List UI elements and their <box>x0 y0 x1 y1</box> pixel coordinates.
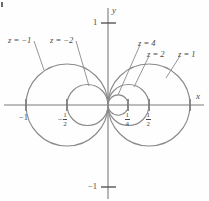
fraction-denominator: 4 <box>125 120 130 127</box>
fraction-denominator: 2 <box>146 120 151 127</box>
axis-lines <box>4 8 204 199</box>
fraction-one-half: 12 <box>146 112 151 128</box>
x-tick-label-neg-1: −1 <box>19 113 28 122</box>
fraction-one-half: 12 <box>63 112 68 128</box>
figure-canvas: y x z = −1 z = −2 z = 4 z = 2 z = 1 −1 −… <box>0 0 209 201</box>
leader-z-1 <box>166 56 180 78</box>
fraction-denominator: 2 <box>63 120 68 127</box>
leader-z-neg-1 <box>34 41 44 70</box>
x-tick-label-half: 12 <box>146 112 151 128</box>
plot-svg <box>0 0 209 201</box>
x-axis-label: x <box>196 92 200 101</box>
y-tick-label-one: 1 <box>93 18 97 27</box>
curve-label-z-4: z = 4 <box>138 39 156 48</box>
curve-label-z-1: z = 1 <box>178 50 196 59</box>
leader-z-4 <box>118 45 140 95</box>
y-axis-label: y <box>112 6 116 15</box>
y-tick-label-neg-one: −1 <box>88 182 97 191</box>
x-tick-label-quarter: 14 <box>125 112 130 128</box>
leader-z-2 <box>134 56 149 87</box>
leader-z-neg-2 <box>76 41 89 86</box>
curve-label-z-neg-2: z = −2 <box>50 36 73 45</box>
x-tick-label-neg-half: −12 <box>58 112 67 128</box>
fraction-one-quarter: 14 <box>125 112 130 128</box>
curve-label-z-2: z = 2 <box>147 50 165 59</box>
curve-label-z-neg-1: z = −1 <box>8 36 31 45</box>
